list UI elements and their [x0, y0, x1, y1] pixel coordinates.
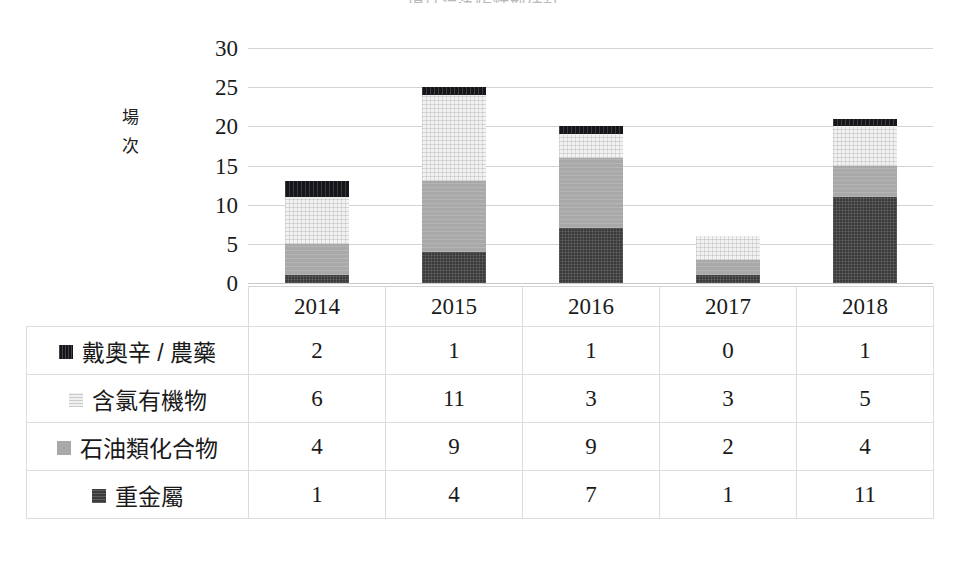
table-cell: 11	[797, 471, 934, 519]
table-header-year: 2014	[249, 287, 386, 327]
table-cell: 2	[660, 423, 797, 471]
table-cell: 7	[523, 471, 660, 519]
table-cell: 9	[386, 423, 523, 471]
table-cell: 3	[523, 375, 660, 423]
table-cell: 5	[797, 375, 934, 423]
legend-label: 重金屬	[115, 484, 184, 510]
bar-slot-2014	[248, 48, 385, 283]
table-cell: 4	[386, 471, 523, 519]
stacked-bar[interactable]	[833, 119, 897, 283]
y-axis-title-char-2: 次	[110, 132, 150, 161]
bar-segment-dioxin[interactable]	[422, 87, 486, 95]
bar-segment-dioxin[interactable]	[833, 119, 897, 127]
legend-label: 石油類化合物	[80, 436, 218, 462]
y-tick-label: 25	[180, 76, 238, 99]
chart-area: 場 次 302520151050	[0, 0, 961, 292]
table-cell: 3	[660, 375, 797, 423]
bar-segment-petro[interactable]	[285, 244, 349, 275]
table-cell: 6	[249, 375, 386, 423]
bar-segment-chloro[interactable]	[696, 236, 760, 260]
table-cell: 4	[249, 423, 386, 471]
table-cell: 11	[386, 375, 523, 423]
y-tick-label: 5	[180, 233, 238, 256]
bar-segment-chloro[interactable]	[833, 126, 897, 165]
legend-swatch-chloro-icon	[69, 393, 83, 407]
table-header-year: 2015	[386, 287, 523, 327]
table-row: 含氯有機物611335	[27, 375, 934, 423]
table-cell: 9	[523, 423, 660, 471]
y-axis-title-char-1: 場	[110, 103, 150, 132]
legend-swatch-dioxin-icon	[59, 345, 73, 359]
y-tick-label: 10	[180, 194, 238, 217]
bar-segment-chloro[interactable]	[422, 95, 486, 181]
y-tick-label: 15	[180, 155, 238, 178]
table-row: 重金屬147111	[27, 471, 934, 519]
bar-segment-dioxin[interactable]	[285, 181, 349, 197]
stacked-bar[interactable]	[559, 126, 623, 283]
y-tick-label: 20	[180, 115, 238, 138]
table-header-row: 20142015201620172018	[27, 287, 934, 327]
y-tick-label: 30	[180, 37, 238, 60]
table-cell: 1	[386, 327, 523, 375]
stacked-bar[interactable]	[422, 87, 486, 283]
y-axis-tick-labels: 302520151050	[178, 36, 238, 292]
bar-slot-2018	[796, 48, 933, 283]
table-header-year: 2016	[523, 287, 660, 327]
legend-item-dioxin[interactable]: 戴奧辛 / 農藥	[27, 327, 249, 375]
table-cell: 2	[249, 327, 386, 375]
bar-segment-chloro[interactable]	[559, 134, 623, 158]
bar-segment-heavy[interactable]	[833, 197, 897, 283]
stacked-bar[interactable]	[285, 181, 349, 283]
legend-item-chloro[interactable]: 含氯有機物	[27, 375, 249, 423]
legend-label: 含氯有機物	[92, 388, 207, 414]
legend-label: 戴奧辛 / 農藥	[82, 340, 216, 366]
data-table-body: 20142015201620172018戴奧辛 / 農藥21101含氯有機物61…	[27, 287, 934, 519]
table-cell: 1	[797, 327, 934, 375]
legend-item-petro[interactable]: 石油類化合物	[27, 423, 249, 471]
table-cell: 0	[660, 327, 797, 375]
table-cell: 1	[660, 471, 797, 519]
gridline	[248, 283, 933, 284]
bar-slot-2015	[385, 48, 522, 283]
bar-segment-heavy[interactable]	[559, 228, 623, 283]
table-cell: 1	[249, 471, 386, 519]
bar-slot-2017	[659, 48, 796, 283]
table-cell: 1	[523, 327, 660, 375]
data-table: 20142015201620172018戴奧辛 / 農藥21101含氯有機物61…	[26, 286, 934, 519]
y-axis-title: 場 次	[110, 103, 150, 161]
bar-segment-heavy[interactable]	[285, 275, 349, 283]
bar-segment-petro[interactable]	[833, 166, 897, 197]
bar-segment-heavy[interactable]	[422, 252, 486, 283]
table-header-year: 2018	[797, 287, 934, 327]
bar-segment-petro[interactable]	[559, 158, 623, 229]
table-cell: 4	[797, 423, 934, 471]
table-row: 戴奧辛 / 農藥21101	[27, 327, 934, 375]
table-row: 石油類化合物49924	[27, 423, 934, 471]
legend-swatch-petro-icon	[57, 441, 71, 455]
bar-segment-dioxin[interactable]	[559, 126, 623, 134]
bar-segment-chloro[interactable]	[285, 197, 349, 244]
bar-segment-heavy[interactable]	[696, 275, 760, 283]
stacked-bar[interactable]	[696, 236, 760, 283]
table-header-year: 2017	[660, 287, 797, 327]
plot-area	[248, 48, 933, 283]
table-header-corner	[27, 287, 249, 327]
bar-segment-petro[interactable]	[696, 260, 760, 276]
legend-item-heavy[interactable]: 重金屬	[27, 471, 249, 519]
bar-segment-petro[interactable]	[422, 181, 486, 252]
legend-swatch-heavy-icon	[92, 489, 106, 503]
bar-slot-2016	[522, 48, 659, 283]
